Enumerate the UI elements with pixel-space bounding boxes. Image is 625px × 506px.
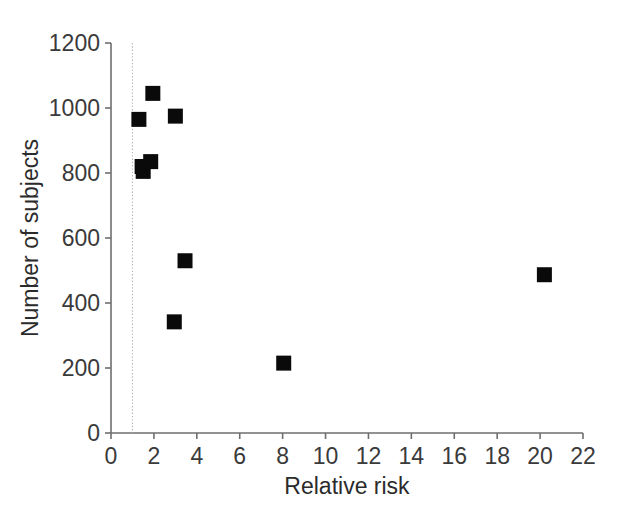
y-tick-label-800: 800	[62, 160, 100, 186]
x-tick-label-2: 2	[148, 443, 161, 469]
x-tick-label-12: 12	[356, 443, 382, 469]
y-axis-title: Number of subjects	[17, 139, 43, 337]
x-tick-label-8: 8	[276, 443, 289, 469]
y-tick-label-400: 400	[62, 290, 100, 316]
y-tick-label-200: 200	[62, 355, 100, 381]
x-tick-label-22: 22	[570, 443, 596, 469]
x-tick-label-6: 6	[233, 443, 246, 469]
plot-canvas: 0200400600800100012000246810121416182022…	[0, 0, 625, 506]
y-tick-label-1000: 1000	[49, 95, 100, 121]
x-tick-label-0: 0	[105, 443, 118, 469]
y-tick-label-600: 600	[62, 225, 100, 251]
y-tick-label-0: 0	[87, 420, 100, 446]
x-tick-label-18: 18	[484, 443, 510, 469]
data-point-7	[167, 314, 182, 329]
data-point-1	[145, 86, 160, 101]
x-axis-title: Relative risk	[284, 473, 410, 499]
data-point-0	[131, 112, 146, 127]
data-point-5	[143, 154, 158, 169]
data-point-2	[168, 109, 183, 124]
data-point-6	[178, 253, 193, 268]
x-tick-label-10: 10	[313, 443, 339, 469]
y-tick-label-1200: 1200	[49, 30, 100, 56]
data-point-9	[537, 267, 552, 282]
data-point-8	[276, 356, 291, 371]
scatter-plot-figure: 0200400600800100012000246810121416182022…	[0, 0, 625, 506]
x-tick-label-14: 14	[399, 443, 425, 469]
x-tick-label-16: 16	[441, 443, 467, 469]
x-tick-label-4: 4	[190, 443, 203, 469]
x-tick-label-20: 20	[527, 443, 553, 469]
